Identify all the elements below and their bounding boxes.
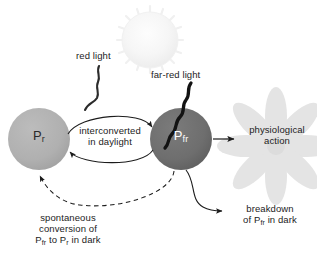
label-spontaneous-conversion: spontaneous conversion of Pfr to Pr in d… bbox=[12, 212, 124, 248]
physiological-line-2: action bbox=[264, 135, 290, 146]
interconverted-line-1: interconverted bbox=[79, 125, 141, 136]
label-red-light: red light bbox=[76, 50, 111, 61]
breakdown-line-2: of Pfr in dark bbox=[243, 214, 297, 225]
spontaneous-line-3: Pfr to Pr in dark bbox=[35, 234, 100, 245]
spontaneous-line-1: spontaneous bbox=[40, 212, 96, 223]
arrow-pfr-to-pr bbox=[70, 150, 153, 163]
label-pfr: Pfr bbox=[163, 130, 199, 145]
label-pr: Pr bbox=[22, 130, 56, 145]
flower-icon bbox=[217, 87, 317, 205]
label-interconverted: interconverted in daylight bbox=[70, 125, 150, 147]
physiological-line-1: physiological bbox=[249, 124, 305, 135]
spontaneous-end: in dark bbox=[69, 234, 101, 245]
breakdown-line-1: breakdown bbox=[246, 203, 293, 214]
pr-symbol: P bbox=[33, 128, 42, 143]
arrow-spontaneous-conversion bbox=[40, 171, 174, 206]
breakdown-suffix: in dark bbox=[265, 214, 297, 225]
pfr-subscript: fr bbox=[183, 134, 189, 144]
arrow-breakdown bbox=[186, 170, 222, 211]
spontaneous-mid: to P bbox=[46, 234, 66, 245]
label-far-red-light: far-red light bbox=[151, 69, 200, 80]
sun-icon bbox=[117, 6, 183, 73]
label-physiological-action: physiological action bbox=[240, 124, 314, 146]
label-breakdown: breakdown of Pfr in dark bbox=[228, 203, 312, 228]
breakdown-prefix: of P bbox=[243, 214, 260, 225]
pr-subscript: r bbox=[42, 134, 45, 144]
interconverted-line-2: in daylight bbox=[88, 136, 132, 147]
pfr-symbol: P bbox=[174, 128, 183, 143]
red-light-wave-icon bbox=[85, 66, 99, 110]
phytochrome-diagram: red light far-red light interconverted i… bbox=[0, 0, 317, 258]
spontaneous-line-2: conversion of bbox=[39, 223, 97, 234]
